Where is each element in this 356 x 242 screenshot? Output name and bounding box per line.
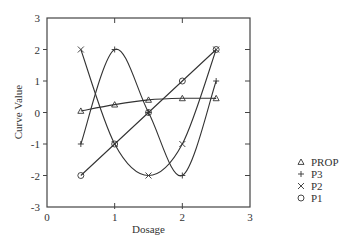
y-tick-label: 1 xyxy=(35,75,41,87)
x-tick-label: 0 xyxy=(44,211,50,223)
legend-item-p3: P3 xyxy=(298,168,323,180)
y-tick-label: 0 xyxy=(35,107,41,119)
legend-item-p1: P1 xyxy=(298,192,323,204)
legend-label: PROP xyxy=(311,156,339,168)
x-legend-icon xyxy=(298,183,304,189)
y-tick-label: -2 xyxy=(31,170,40,182)
legend-label: P1 xyxy=(311,192,323,204)
x-marker-icon xyxy=(179,141,185,147)
legend: PROPP3P2P1 xyxy=(298,156,339,204)
x-axis-title: Dosage xyxy=(132,223,165,235)
tick-labels: 0123-3-2-10123 xyxy=(31,12,253,223)
series-p1 xyxy=(78,47,219,179)
y-tick-label: -1 xyxy=(31,138,40,150)
series-line xyxy=(81,50,216,176)
x-tick-label: 3 xyxy=(247,211,253,223)
legend-label: P2 xyxy=(311,180,323,192)
circle-legend-icon xyxy=(298,195,304,201)
chart: 0123-3-2-10123 Dosage Curve Value PROPP3… xyxy=(0,0,356,242)
plus-marker-icon xyxy=(78,141,84,147)
y-tick-label: 3 xyxy=(35,12,41,24)
y-tick-label: 2 xyxy=(35,44,41,56)
x-tick-label: 2 xyxy=(180,211,186,223)
x-marker-icon xyxy=(78,47,84,53)
legend-label: P3 xyxy=(311,168,323,180)
plus-marker-icon xyxy=(213,78,219,84)
x-tick-label: 1 xyxy=(112,211,118,223)
series-group xyxy=(78,47,219,179)
plus-legend-icon xyxy=(298,171,304,177)
triangle-legend-icon xyxy=(298,159,304,164)
y-tick-label: -3 xyxy=(31,201,41,213)
legend-item-p2: P2 xyxy=(298,180,323,192)
y-axis-title: Curve Value xyxy=(12,85,24,140)
legend-item-prop: PROP xyxy=(298,156,339,168)
